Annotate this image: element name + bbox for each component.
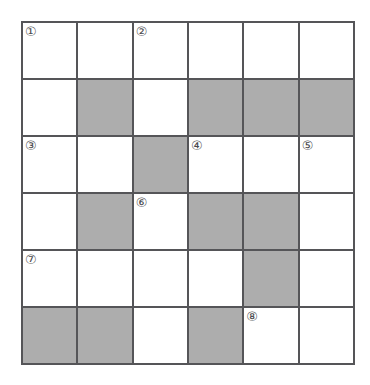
- grid-cell-open-6-5[interactable]: ⑧: [244, 308, 299, 365]
- clue-number-3-1: ③: [25, 138, 37, 153]
- grid-cell-shaded-6-1: [23, 308, 78, 365]
- clue-number-3-6: ⑤: [302, 138, 314, 153]
- grid-cell-open-3-2[interactable]: [78, 137, 133, 194]
- grid-cell-shaded-4-5: [244, 194, 299, 251]
- grid-cell-shaded-6-4: [189, 308, 244, 365]
- grid-cell-shaded-2-4: [189, 80, 244, 137]
- clue-number-5-1: ⑦: [25, 252, 37, 267]
- grid-cell-open-4-6[interactable]: [300, 194, 355, 251]
- grid-cell-open-1-1[interactable]: ①: [23, 23, 78, 80]
- grid-cell-shaded-4-2: [78, 194, 133, 251]
- grid-cell-open-5-1[interactable]: ⑦: [23, 251, 78, 308]
- puzzle-root: ①②③④⑤⑥⑦⑧: [0, 0, 370, 385]
- grid-cell-shaded-2-6: [300, 80, 355, 137]
- grid-cell-open-5-6[interactable]: [300, 251, 355, 308]
- grid-cell-open-4-3[interactable]: ⑥: [134, 194, 189, 251]
- clue-number-4-3: ⑥: [136, 195, 148, 210]
- grid-cell-open-3-1[interactable]: ③: [23, 137, 78, 194]
- grid-cell-shaded-6-2: [78, 308, 133, 365]
- grid-cell-open-1-5[interactable]: [244, 23, 299, 80]
- grid-cell-open-3-6[interactable]: ⑤: [300, 137, 355, 194]
- grid-cell-open-1-4[interactable]: [189, 23, 244, 80]
- grid-cell-open-2-3[interactable]: [134, 80, 189, 137]
- grid-cell-open-5-4[interactable]: [189, 251, 244, 308]
- grid-cell-open-4-1[interactable]: [23, 194, 78, 251]
- grid-cell-shaded-2-5: [244, 80, 299, 137]
- grid-cell-shaded-2-2: [78, 80, 133, 137]
- grid-cell-open-3-5[interactable]: [244, 137, 299, 194]
- grid-cell-open-5-3[interactable]: [134, 251, 189, 308]
- grid-cell-open-1-3[interactable]: ②: [134, 23, 189, 80]
- clue-number-3-4: ④: [191, 138, 203, 153]
- grid-cell-shaded-5-5: [244, 251, 299, 308]
- clue-number-1-3: ②: [136, 24, 148, 39]
- grid-cell-open-2-1[interactable]: [23, 80, 78, 137]
- grid-cell-shaded-4-4: [189, 194, 244, 251]
- grid-cell-open-3-4[interactable]: ④: [189, 137, 244, 194]
- clue-number-1-1: ①: [25, 24, 37, 39]
- grid-cell-open-5-2[interactable]: [78, 251, 133, 308]
- grid-cell-open-1-2[interactable]: [78, 23, 133, 80]
- grid-cell-open-6-3[interactable]: [134, 308, 189, 365]
- clue-number-6-5: ⑧: [246, 309, 258, 324]
- grid-cell-open-6-6[interactable]: [300, 308, 355, 365]
- grid-cell-open-1-6[interactable]: [300, 23, 355, 80]
- grid-cell-shaded-3-3: [134, 137, 189, 194]
- crossword-grid[interactable]: ①②③④⑤⑥⑦⑧: [21, 21, 355, 365]
